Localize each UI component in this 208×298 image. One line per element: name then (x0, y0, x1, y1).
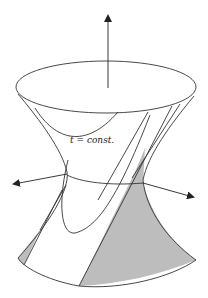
hyperboloid-figure: t = const. (0, 0, 208, 298)
left-axis (14, 174, 67, 184)
right-axis (143, 183, 193, 197)
hyperboloid-diagram (0, 0, 208, 298)
t-const-label: t = const. (70, 135, 114, 145)
top-rim-ellipse (16, 61, 196, 113)
